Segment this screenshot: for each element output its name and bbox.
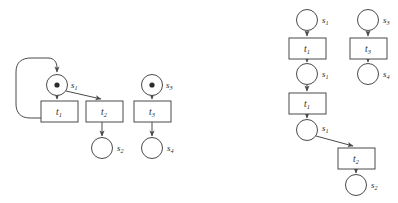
place-s3[interactable]: s3 <box>142 75 173 96</box>
place-u-s1-b-label: s1 <box>322 69 329 80</box>
place-u-s2-label: s2 <box>371 180 378 191</box>
place-u-s1-c-circle <box>297 120 318 141</box>
place-u-s3-circle <box>358 10 379 31</box>
place-u-s1-c-label: s1 <box>322 123 329 134</box>
place-u-s3-label: s3 <box>383 15 390 26</box>
transition-u-t2[interactable]: t2 <box>338 148 375 169</box>
place-u-s1-b[interactable]: s1 <box>297 64 329 85</box>
place-s2-circle <box>92 138 113 159</box>
transition-u-t1-b[interactable]: t1 <box>289 93 326 114</box>
arc-us1c-to-ut2 <box>316 136 353 146</box>
transition-u-t3[interactable]: t3 <box>350 38 387 59</box>
place-s2-label: s2 <box>117 143 124 154</box>
place-u-s1-b-circle <box>297 64 318 85</box>
right-net: s1 s3 s1 s4 s1 s2 t1 <box>289 10 390 196</box>
place-u-s4-label: s4 <box>383 69 390 80</box>
place-u-s4[interactable]: s4 <box>358 64 390 85</box>
place-u-s3[interactable]: s3 <box>358 10 390 31</box>
place-u-s2[interactable]: s2 <box>346 175 378 196</box>
place-s2[interactable]: s2 <box>92 138 124 159</box>
petri-net-figure: s1 s2 s3 s4 t1 t2 t <box>0 0 398 203</box>
place-u-s1-a[interactable]: s1 <box>297 10 329 31</box>
transition-t1[interactable]: t1 <box>41 101 78 122</box>
transition-u-t1-a[interactable]: t1 <box>289 38 326 59</box>
transition-t2[interactable]: t2 <box>86 101 123 122</box>
place-s1-label: s1 <box>71 80 78 91</box>
place-u-s4-circle <box>358 64 379 85</box>
transition-t3[interactable]: t3 <box>134 101 171 122</box>
place-u-s1-a-circle <box>297 10 318 31</box>
place-u-s1-a-label: s1 <box>322 15 329 26</box>
place-s4-label: s4 <box>167 143 174 154</box>
left-net: s1 s2 s3 s4 t1 t2 t <box>16 58 174 159</box>
place-s1-token <box>54 82 59 87</box>
place-s3-token <box>149 82 154 87</box>
place-s4-circle <box>142 138 163 159</box>
place-u-s2-circle <box>346 175 367 196</box>
place-s3-label: s3 <box>166 80 173 91</box>
place-u-s1-c[interactable]: s1 <box>297 120 329 141</box>
figure-canvas: s1 s2 s3 s4 t1 t2 t <box>0 0 398 203</box>
place-s4[interactable]: s4 <box>142 138 174 159</box>
arc-s1-to-t2 <box>66 91 101 99</box>
